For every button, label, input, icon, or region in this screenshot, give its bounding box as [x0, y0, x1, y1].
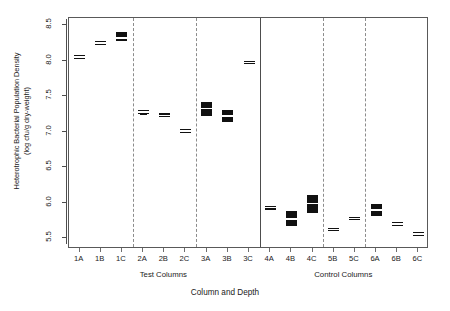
boxplot-2a	[138, 18, 149, 249]
boxplot-median	[138, 110, 149, 113]
x-axis-tick	[79, 248, 80, 252]
x-axis-tick	[290, 248, 291, 252]
x-axis-tick	[269, 248, 270, 252]
y-axis-tick	[62, 95, 67, 96]
x-axis-tick-label-2b: 2B	[152, 254, 174, 263]
y-axis-tick-label: 8.0	[44, 48, 53, 70]
boxplot-3a	[201, 18, 212, 249]
x-axis-tick	[333, 248, 334, 252]
y-axis-tick-label: 5.5	[44, 226, 53, 248]
boxplot-1b	[95, 18, 106, 249]
boxplot-median	[371, 208, 382, 211]
boxplot-median	[116, 36, 127, 39]
x-axis-tick-label-2c: 2C	[173, 254, 195, 263]
boxplot-2b	[159, 18, 170, 249]
plot-area	[68, 17, 428, 248]
boxplot-median	[74, 55, 85, 58]
y-axis-title-line2: (log cfu/g dry-weight)	[22, 10, 31, 232]
boxplot-median	[222, 114, 233, 117]
category-separator-dashed	[196, 18, 197, 247]
boxplot-5b	[328, 18, 339, 249]
x-axis-tick	[227, 248, 228, 252]
y-axis-tick	[62, 166, 67, 167]
boxplot-4a	[265, 18, 276, 249]
y-axis-tick-label: 8.5	[44, 13, 53, 35]
x-axis-tick-label-6a: 6A	[364, 254, 386, 263]
boxplot-3c	[244, 18, 255, 249]
y-axis-tick-label: 7.0	[44, 119, 53, 141]
boxplot-4c	[307, 18, 318, 249]
x-axis-tick-label-5b: 5B	[322, 254, 344, 263]
boxplot-median	[95, 41, 106, 44]
boxplot-median	[286, 217, 297, 220]
boxplot-6c	[413, 18, 424, 249]
boxplot-2c	[180, 18, 191, 249]
group-label-control: Control Columns	[283, 270, 403, 279]
boxplot-1c	[116, 18, 127, 249]
boxplot-median	[265, 206, 276, 209]
boxplot-median	[180, 129, 191, 132]
x-axis-tick	[375, 248, 376, 252]
boxplot-median	[244, 61, 255, 64]
x-axis-tick-label-3a: 3A	[195, 254, 217, 263]
boxplot-5c	[349, 18, 360, 249]
y-axis-tick-label: 6.0	[44, 190, 53, 212]
group-separator-solid	[260, 18, 261, 247]
boxplot-3b	[222, 18, 233, 249]
x-axis-tick	[121, 248, 122, 252]
x-axis-tick	[206, 248, 207, 252]
boxplot-median	[307, 202, 318, 205]
x-axis-tick	[163, 248, 164, 252]
x-axis-tick	[417, 248, 418, 252]
x-axis-tick-label-5c: 5C	[343, 254, 365, 263]
category-separator-dashed	[323, 18, 324, 247]
x-axis-tick-label-6c: 6C	[406, 254, 428, 263]
x-axis-tick-label-4c: 4C	[301, 254, 323, 263]
y-axis-tick	[62, 131, 67, 132]
x-axis-tick-label-1c: 1C	[110, 254, 132, 263]
y-axis-title: Heterotrophic Bacterial Population Densi…	[0, 0, 34, 258]
x-axis-tick-label-1b: 1B	[89, 254, 111, 263]
boxplot-median	[392, 222, 403, 225]
boxplot-6b	[392, 18, 403, 249]
x-axis-tick-label-2a: 2A	[131, 254, 153, 263]
x-axis-title: Column and Depth	[0, 288, 450, 297]
y-axis-tick	[62, 60, 67, 61]
boxplot-median	[328, 228, 339, 231]
boxplot-4b	[286, 18, 297, 249]
x-axis-tick	[142, 248, 143, 252]
boxplot-median	[413, 232, 424, 235]
x-axis-tick-label-6b: 6B	[385, 254, 407, 263]
x-axis-tick	[354, 248, 355, 252]
boxplot-6a	[371, 18, 382, 249]
y-axis-tick	[62, 237, 67, 238]
x-axis-tick	[312, 248, 313, 252]
category-separator-dashed	[133, 18, 134, 247]
y-axis-tick	[62, 24, 67, 25]
x-axis-tick	[248, 248, 249, 252]
boxplot-median	[201, 107, 212, 110]
x-axis-tick	[396, 248, 397, 252]
boxplot-figure: Heterotrophic Bacterial Population Densi…	[0, 0, 450, 311]
boxplot-median	[159, 114, 170, 117]
x-axis-tick-label-1a: 1A	[68, 254, 90, 263]
boxplot-1a	[74, 18, 85, 249]
y-axis-tick-label: 6.5	[44, 155, 53, 177]
group-label-test: Test Columns	[103, 270, 223, 279]
x-axis-tick-label-3b: 3B	[216, 254, 238, 263]
x-axis-tick-label-4b: 4B	[279, 254, 301, 263]
boxplot-median	[349, 217, 360, 220]
x-axis-tick-label-3c: 3C	[237, 254, 259, 263]
y-axis-tick	[62, 202, 67, 203]
category-separator-dashed	[365, 18, 366, 247]
y-axis-tick-label: 7.5	[44, 84, 53, 106]
x-axis-tick	[184, 248, 185, 252]
x-axis-tick-label-4a: 4A	[258, 254, 280, 263]
x-axis-tick	[100, 248, 101, 252]
y-axis-title-line1: Heterotrophic Bacterial Population Densi…	[12, 10, 21, 232]
